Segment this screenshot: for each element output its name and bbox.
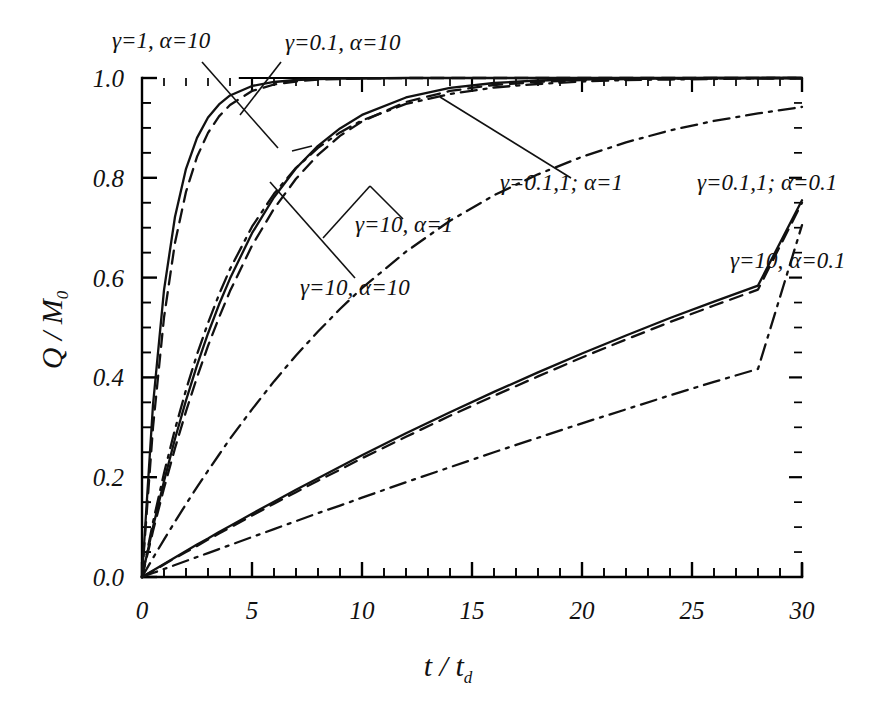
y-axis-title: Q / M0 <box>35 290 72 369</box>
x-axis-title-main: t / t <box>424 649 465 682</box>
ann-g1-a10: γ=1, α=10 <box>112 28 211 53</box>
y-tick-label-3: 0.6 <box>93 265 125 292</box>
ann-g011-a01: γ=0.1,1; α=0.1 <box>697 170 837 195</box>
y-tick-label-1: 0.2 <box>93 464 124 491</box>
ann-g011-a1: γ=0.1,1; α=1 <box>500 170 623 195</box>
ann-g10-a10: γ=10, α=10 <box>300 275 410 300</box>
x-tick-label-2: 10 <box>350 597 376 624</box>
y-tick-label-2: 0.4 <box>93 364 124 391</box>
y-tick-label-0: 0.0 <box>93 564 125 591</box>
ann-g10-a1: γ=10, α=1 <box>355 212 453 237</box>
y-tick-label-4: 0.8 <box>93 165 125 192</box>
y-tick-label-5: 1.0 <box>93 65 125 92</box>
x-tick-label-5: 25 <box>680 597 705 624</box>
chart-background <box>0 0 893 703</box>
y-axis-title-main: Q / M <box>35 297 68 369</box>
x-tick-label-3: 15 <box>460 597 485 624</box>
ann-g01-a10: γ=0.1, α=10 <box>285 30 401 55</box>
x-tick-label-6: 30 <box>789 597 816 624</box>
x-axis-title-sub: d <box>464 668 473 687</box>
chart-svg: 0510152025300.00.20.40.60.81.0 γ=1, α=10… <box>0 0 893 703</box>
x-tick-label-0: 0 <box>136 597 149 624</box>
y-axis-title-sub: 0 <box>53 290 72 299</box>
ann-g10-a01: γ=10, α=0.1 <box>730 248 845 273</box>
chart-figure: 0510152025300.00.20.40.60.81.0 γ=1, α=10… <box>0 0 893 703</box>
x-tick-label-1: 5 <box>246 597 259 624</box>
x-tick-label-4: 20 <box>570 597 596 624</box>
